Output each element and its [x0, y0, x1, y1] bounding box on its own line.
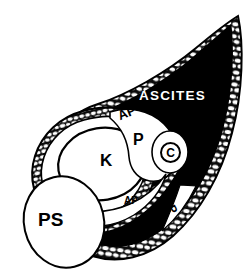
- figure-illustration: [0, 0, 252, 277]
- anatomical-figure: ASCITES AP P K PS AP PP C: [0, 0, 252, 277]
- label-colon: C: [166, 147, 175, 159]
- label-colon-badge: C: [160, 142, 181, 163]
